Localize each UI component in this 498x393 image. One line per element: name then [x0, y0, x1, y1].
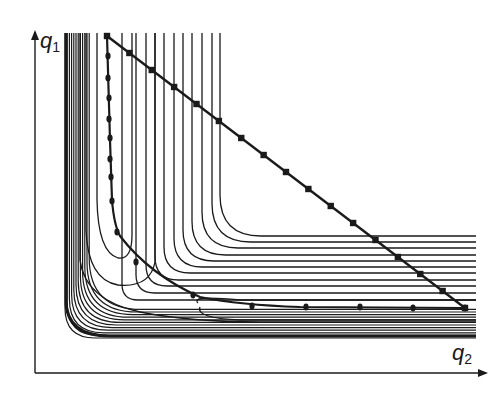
straight-path [104, 33, 468, 311]
contour-diagram [0, 0, 498, 393]
q2-axis-label: q2 [452, 342, 472, 366]
q1-axis-label: q1 [40, 30, 60, 54]
contour-lines [65, 33, 476, 338]
